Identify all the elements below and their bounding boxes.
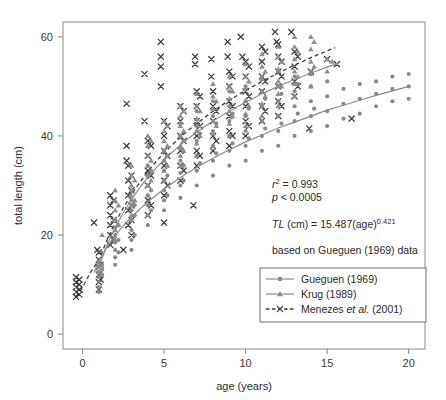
data-point-cross [209, 74, 214, 79]
data-point-circle [227, 89, 231, 93]
data-point-circle [296, 82, 300, 86]
data-point-cross [225, 54, 230, 59]
figure-container: 051015200204060age (years)total length (… [0, 0, 446, 400]
data-point-circle [292, 104, 296, 108]
data-point-circle [358, 112, 362, 116]
data-point-cross [263, 109, 268, 114]
data-point-circle [227, 164, 231, 168]
data-point-triangle [262, 69, 268, 74]
data-point-circle [247, 107, 251, 111]
data-point-circle [374, 79, 378, 83]
data-point-triangle [311, 64, 317, 69]
data-point-circle [146, 213, 150, 217]
data-point-circle [162, 198, 166, 202]
data-point-circle [146, 223, 150, 227]
data-point-circle [263, 97, 267, 101]
data-point-circle [165, 174, 169, 178]
data-point-circle [182, 164, 186, 168]
data-point-circle [116, 223, 120, 227]
data-point-triangle [148, 158, 154, 163]
p-value-annotation: p < 0.0005 [271, 191, 322, 203]
data-point-cross [124, 158, 129, 163]
data-point-cross [142, 71, 147, 76]
data-point-circle [116, 250, 120, 254]
data-point-cross [214, 138, 219, 143]
data-point-cross [259, 44, 264, 49]
data-point-circle [276, 144, 280, 148]
data-point-circle [276, 84, 280, 88]
data-point-cross [192, 54, 197, 59]
y-tick-label: 40 [41, 130, 53, 142]
data-point-triangle [324, 69, 330, 74]
data-point-circle [97, 290, 101, 294]
data-point-cross [209, 56, 214, 61]
data-point-cross [142, 118, 147, 123]
y-tick-label: 20 [41, 229, 53, 241]
data-point-circle [325, 94, 329, 98]
data-point-circle [195, 183, 199, 187]
data-point-circle [244, 99, 248, 103]
data-point-cross [289, 29, 294, 34]
data-point-circle [390, 74, 394, 78]
data-point-circle [162, 208, 166, 212]
data-point-circle [178, 134, 182, 138]
data-point-circle [165, 193, 169, 197]
data-point-cross [108, 222, 113, 227]
data-point-circle [198, 131, 202, 135]
data-point-circle [133, 203, 137, 207]
data-point-circle [162, 159, 166, 163]
data-point-circle [116, 238, 120, 242]
data-point-circle [227, 119, 231, 123]
data-point-circle [100, 268, 104, 272]
data-point-circle [178, 171, 182, 175]
data-point-circle [178, 183, 182, 187]
scatter-plot: 051015200204060age (years)total length (… [0, 0, 446, 400]
data-point-circle [260, 104, 264, 108]
data-point-circle [113, 255, 117, 259]
data-point-circle [146, 193, 150, 197]
x-tick-label: 0 [80, 357, 86, 369]
data-point-circle [309, 69, 313, 73]
data-point-circle [211, 144, 215, 148]
data-point-triangle [132, 178, 138, 183]
data-point-cross [238, 34, 243, 39]
data-point-circle [278, 277, 282, 281]
data-point-circle [178, 159, 182, 163]
x-tick-label: 20 [403, 357, 415, 369]
data-point-triangle [145, 133, 151, 138]
data-point-cross [279, 74, 284, 79]
data-point-cross [227, 69, 232, 74]
data-point-circle [149, 169, 153, 173]
data-point-cross [225, 39, 230, 44]
data-point-circle [214, 121, 218, 125]
data-point-circle [276, 129, 280, 133]
data-point-circle [263, 126, 267, 130]
data-point-circle [129, 248, 133, 252]
data-point-circle [129, 208, 133, 212]
data-point-cross [240, 54, 245, 59]
data-point-circle [146, 183, 150, 187]
data-point-circle [100, 273, 104, 277]
statistics-annotation: r2 = 0.993p < 0.0005TL (cm) = 15.487(age… [271, 177, 418, 256]
data-point-circle [292, 134, 296, 138]
data-point-circle [260, 119, 264, 123]
data-point-triangle [308, 59, 314, 64]
data-point-circle [195, 154, 199, 158]
data-point-circle [195, 109, 199, 113]
data-point-circle [211, 114, 215, 118]
data-point-circle [211, 174, 215, 178]
data-point-circle [211, 99, 215, 103]
data-series-layer [73, 29, 410, 299]
data-point-triangle [275, 79, 281, 84]
data-point-triangle [308, 34, 314, 39]
y-tick-label: 0 [47, 328, 53, 340]
data-point-circle [231, 112, 235, 116]
data-point-cross [108, 203, 113, 208]
data-point-triangle [112, 188, 118, 193]
data-point-cross [243, 118, 248, 123]
r-squared-annotation: r2 = 0.993 [272, 177, 318, 190]
data-point-circle [214, 151, 218, 155]
data-point-cross [124, 101, 129, 106]
data-point-triangle [164, 143, 170, 148]
data-point-circle [296, 112, 300, 116]
